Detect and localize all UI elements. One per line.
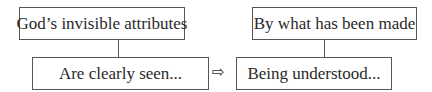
- connector-left: [118, 40, 119, 57]
- node-by-what-has-been-made: By what has been made: [252, 7, 417, 40]
- node-label: By what has been made: [254, 14, 415, 34]
- node-label: Are clearly seen...: [59, 64, 182, 84]
- node-gods-invisible-attributes: God’s invisible attributes: [19, 7, 185, 40]
- node-label: Being understood...: [247, 64, 380, 84]
- node-label: God’s invisible attributes: [17, 14, 188, 34]
- connector-right: [324, 40, 325, 57]
- node-are-clearly-seen: Are clearly seen...: [32, 57, 209, 90]
- node-being-understood: Being understood...: [236, 57, 392, 90]
- right-arrow-icon: ⇨: [212, 65, 225, 80]
